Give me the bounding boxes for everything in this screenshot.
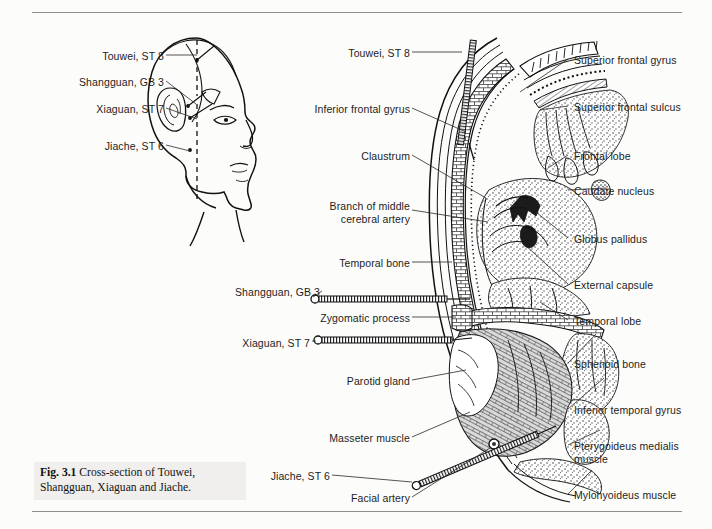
label-caudate-nucleus: Caudate nucleus: [574, 185, 654, 198]
label-inferior-temporal-gyrus: Inferior temporal gyrus: [574, 404, 681, 417]
label-claustrum: Claustrum: [270, 150, 410, 163]
lateral-head-drawing: [148, 38, 256, 246]
figure-caption: Fig. 3.1 Cross-section of Touwei, Shangg…: [34, 462, 246, 500]
label-touwei-st8: Touwei, ST 8: [270, 47, 410, 60]
needle-shangguan: [311, 295, 470, 303]
label-external-capsule: External capsule: [574, 279, 653, 292]
masseter-parotid-mass: [449, 329, 572, 457]
label-masseter-muscle: Masseter muscle: [270, 432, 410, 445]
needle-xiaguan: [314, 336, 472, 344]
label-facial-artery: Facial artery: [270, 492, 410, 505]
figure-page: Touwei, ST 8 Shangguan, GB 3 Xiaguan, ST…: [0, 0, 712, 529]
zygomatic-process-block: [452, 305, 472, 331]
label-superior-frontal-gyrus: Superior frontal gyrus: [574, 54, 677, 67]
label-temporal-bone: Temporal bone: [270, 257, 410, 270]
head-label-touwei: Touwei, ST 8: [56, 50, 164, 63]
label-inferior-frontal-gyrus: Inferior frontal gyrus: [270, 103, 410, 116]
head-label-jiache: Jiache, ST 6: [54, 140, 164, 153]
label-zygomatic-process: Zygomatic process: [270, 312, 410, 325]
label-superior-frontal-sulcus: Superior frontal sulcus: [574, 101, 681, 114]
label-globus-pallidus: Globus pallidus: [574, 233, 647, 246]
label-sphenoid-bone: Sphenoid bone: [574, 358, 646, 371]
figure-number: Fig. 3.1: [40, 466, 76, 479]
head-label-shangguan: Shangguan, GB 3: [24, 76, 164, 89]
label-mylohyoideus-muscle: Mylohyoideus muscle: [574, 489, 676, 502]
head-label-xiaguan: Xiaguan, ST 7: [48, 103, 164, 116]
label-pterygoideus-medialis-muscle: Pterygoideus medialis muscle: [574, 440, 679, 465]
label-frontal-lobe: Frontal lobe: [574, 150, 631, 163]
point-marker-jiache: [188, 148, 192, 152]
label-shangguan-gb3: Shangguan, GB 3: [180, 286, 320, 299]
label-parotid-gland: Parotid gland: [270, 375, 410, 388]
label-xiaguan-st7: Xiaguan, ST 7: [180, 337, 310, 350]
label-branch-middle-cerebral-artery: Branch of middle cerebral artery: [270, 200, 410, 225]
label-temporal-lobe: Temporal lobe: [574, 315, 641, 328]
